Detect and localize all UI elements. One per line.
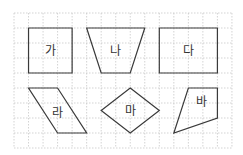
shape-label: 바	[196, 95, 207, 109]
shape-quadrilateral: 바	[174, 88, 218, 133]
shape-label: 마	[125, 104, 136, 118]
diagram-canvas: 가나다라마바	[0, 0, 243, 155]
shape-label: 나	[110, 44, 121, 58]
shape-grid-diagram: 가나다라마바	[0, 0, 243, 155]
shape-label: 라	[52, 106, 63, 120]
shape-label: 가	[45, 44, 56, 58]
shape-label: 다	[183, 44, 194, 58]
shapes-layer: 가나다라마바	[29, 28, 218, 133]
shape-square: 가	[29, 28, 73, 73]
